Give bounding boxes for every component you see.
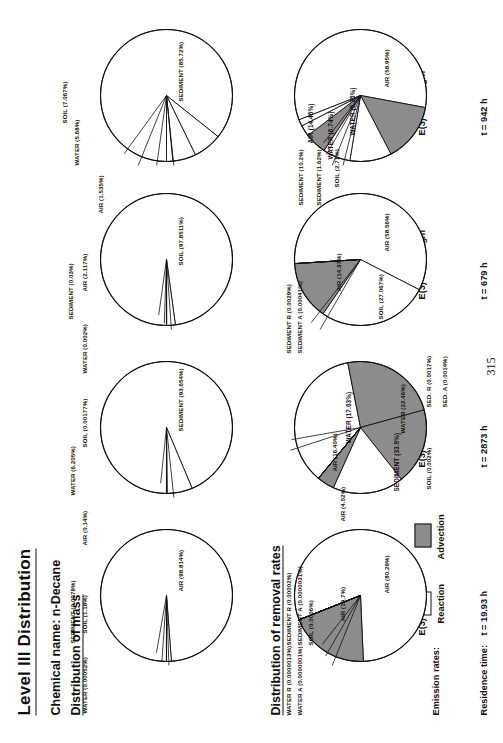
label-rem3-air-adv: AIR (14.37%) xyxy=(334,253,341,291)
label-rem1-air-adv: AIR (19.7%) xyxy=(338,586,345,621)
legend-label-reaction: Reaction xyxy=(434,583,445,623)
label-rem4-water-535: WATER (5.35%) xyxy=(348,87,355,135)
pie-chart-removal-2 xyxy=(290,357,430,497)
label-rem1-water-r: WATER R (0.0000013%) xyxy=(284,645,291,715)
pie-chart-mass-1 xyxy=(96,525,236,665)
label-mass4-sediment: SEDIMENT (85.72%) xyxy=(176,41,183,101)
scanned-page-rotated: Level III Distribution Chemical name: n-… xyxy=(0,0,503,743)
label-rem3-soil: SOIL (27.067%) xyxy=(376,274,383,319)
page-number: 315 xyxy=(483,357,498,375)
label-mass2-air: AIR (0.14%) xyxy=(80,510,87,545)
legend-label-advection: Advection xyxy=(434,514,445,559)
label-rem1-air-rea: AIR (80.29%) xyxy=(382,555,389,593)
label-rem2-sediment: SEDIMENT (33.9%) xyxy=(392,432,399,491)
label-rem2-water-1763: WATER (17.63%) xyxy=(344,391,351,443)
label-rem4-sediment-162: SEDIMENT (1.62%) xyxy=(314,149,321,205)
label-mass4-air: AIR (1.535%) xyxy=(96,175,103,213)
label-mass1-air: AIR (98.814%) xyxy=(176,549,183,591)
label-rem3-air-rea: AIR (58.56%) xyxy=(382,213,389,251)
label-mass1-soil: SOIL (1.18%) xyxy=(80,595,87,633)
pie-chart-mass-3 xyxy=(96,189,236,329)
label-mass3-sediment: SEDIMENT (0.03%) xyxy=(66,263,73,319)
label-rem1-soil: SOIL (0.0006%) xyxy=(306,600,313,645)
emission-rates-heading: Emission rates: xyxy=(430,647,440,715)
label-mass4-water: WATER (5.68%) xyxy=(72,119,79,165)
label-rem2-sed-a: SED. A (0.0014%) xyxy=(440,356,447,407)
label-rem1-sediment-a: SEDIMENT A (0.0000031%) xyxy=(295,566,302,645)
label-mass3-air: AIR (2.117%) xyxy=(80,253,87,291)
label-rem1-water-a: WATER A (0.0000001%) xyxy=(295,646,302,715)
residence-time-heading: Residence time: xyxy=(478,645,488,715)
label-rem1-sediment-r: SEDIMENT R (0.00002%) xyxy=(284,572,291,645)
pie-chart-removal-3 xyxy=(290,189,430,329)
label-mass1-sediment: SEDIMENT (0.0078%) xyxy=(68,580,75,643)
pie-chart-mass-2 xyxy=(96,357,236,497)
label-rem2-air-1640: AIR (16.40%) xyxy=(330,433,337,471)
pie-chart-removal-4 xyxy=(290,25,430,165)
label-rem2-water-2246: WATER (22.46%) xyxy=(398,384,405,433)
label-rem4-sediment-102: SEDIMENT (10.2%) xyxy=(296,149,303,205)
label-mass2-sediment: SEDIMENT (93.654%) xyxy=(176,368,183,431)
col2-residence: t = 2873 h xyxy=(478,425,488,467)
label-mass4-soil: SOIL (7.067%) xyxy=(60,81,67,123)
col1-residence: t = 19.93 h xyxy=(478,590,488,635)
label-rem2-sed-r: SED. R (0.0017%) xyxy=(424,355,431,407)
label-mass3-soil: SOIL (97.8511%) xyxy=(176,217,183,265)
section-removal-heading: Distribution of removal rates xyxy=(268,545,283,715)
label-rem4-air-adv: AIR (14.46%) xyxy=(306,103,313,143)
pie-chart-mass-4 xyxy=(96,25,236,165)
label-mass2-soil: SOIL (0.00177%) xyxy=(80,398,87,447)
page-title: Level III Distribution xyxy=(14,548,36,715)
label-mass3-water: WATER (0.002%) xyxy=(80,324,87,373)
label-mass1-water: WATER (0.00052%) xyxy=(80,657,87,713)
col3-residence: t = 679 h xyxy=(478,262,488,299)
chemical-name: Chemical name: n-Decane xyxy=(48,559,62,715)
label-rem2-air-402: AIR (4.02%) xyxy=(338,486,345,521)
label-rem3-sediment-a: SEDIMENT A (0.00041%) xyxy=(295,281,302,353)
col4-residence: t = 942 h xyxy=(478,98,488,135)
label-mass2-water: WATER (6.205%) xyxy=(68,446,75,495)
document-page: Level III Distribution Chemical name: n-… xyxy=(0,0,503,743)
label-rem4-air-rea: AIR (58.95%) xyxy=(382,49,389,87)
label-rem3-sediment-r: SEDIMENT R (0.0029%) xyxy=(284,284,291,353)
label-rem2-soil: SOIL (0.002%) xyxy=(424,447,431,489)
label-rem4-water-674: WATER (6.74%) xyxy=(326,111,333,159)
